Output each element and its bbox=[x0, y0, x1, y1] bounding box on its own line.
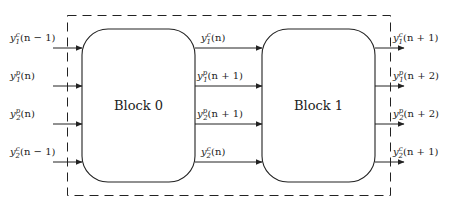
input-label-0: yc1(n − 1) bbox=[9, 31, 55, 46]
middle-label-1: yp1(n + 1) bbox=[196, 69, 243, 84]
diagram-canvas: Block 0 Block 1 yc1(n − 1) yp1(n) yp2(n)… bbox=[0, 0, 452, 206]
output-label-0: yc1(n + 1) bbox=[392, 31, 438, 46]
input-label-2: yp2(n) bbox=[9, 107, 35, 122]
input-label-1: yp1(n) bbox=[9, 69, 35, 84]
middle-label-2: yp2(n + 1) bbox=[196, 107, 243, 122]
middle-label-0: yc1(n) bbox=[200, 31, 225, 46]
block-0-label: Block 0 bbox=[114, 98, 163, 113]
output-label-2: yp2(n + 2) bbox=[392, 107, 439, 122]
output-label-3: yc2(n + 1) bbox=[392, 145, 438, 160]
middle-arrows bbox=[195, 48, 262, 162]
output-label-1: yp1(n + 2) bbox=[392, 69, 439, 84]
middle-label-3: yc2(n) bbox=[200, 145, 225, 160]
input-label-3: yc2(n − 1) bbox=[9, 145, 55, 160]
block-1-label: Block 1 bbox=[294, 98, 343, 113]
